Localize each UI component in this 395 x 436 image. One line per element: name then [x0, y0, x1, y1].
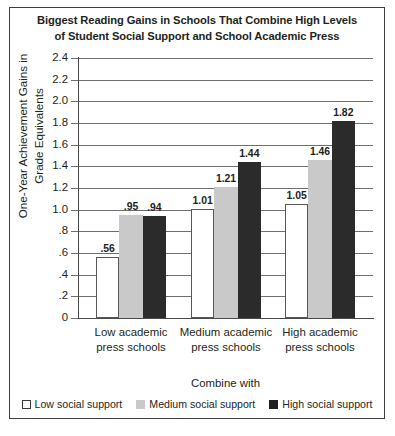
legend-item: Low social support: [22, 398, 123, 410]
y-axis-tick: [71, 80, 78, 81]
y-axis-tick: [71, 253, 78, 254]
bar: [119, 215, 142, 318]
x-axis-title: Combine with: [78, 377, 373, 389]
y-axis-tick-label: .8: [28, 225, 68, 236]
y-axis-tick-label: 2.4: [28, 52, 68, 63]
y-axis-tick-label: 1.4: [28, 160, 68, 171]
chart-title-line-1: Biggest Reading Gains in Schools That Co…: [14, 13, 380, 29]
bar-value-label: 1.01: [185, 195, 220, 206]
x-axis-line: [78, 318, 374, 319]
y-axis-tick-label: .6: [28, 247, 68, 258]
y-axis-tick: [71, 231, 78, 232]
y-axis-tick-label: 0: [28, 312, 68, 323]
x-axis-category-label: High academicpress schools: [263, 325, 377, 354]
y-axis-tick-label: 1.6: [28, 139, 68, 150]
bar: [191, 209, 214, 318]
x-axis-category-label-line: High academic: [263, 325, 377, 340]
bar-value-label: 1.05: [279, 190, 314, 201]
y-axis-tick: [71, 145, 78, 146]
bar-value-label: 1.46: [302, 146, 337, 157]
plot-area: [78, 58, 373, 318]
y-axis-title-line-1: One-Year Achievement Gains in: [15, 11, 31, 261]
y-axis-tick: [71, 188, 78, 189]
y-axis-tick: [71, 275, 78, 276]
y-axis-tick: [71, 318, 78, 319]
legend-swatch-icon: [269, 400, 278, 409]
chart-title: Biggest Reading Gains in Schools That Co…: [14, 13, 380, 44]
bar: [143, 216, 166, 318]
chart-figure: Biggest Reading Gains in Schools That Co…: [0, 0, 395, 436]
x-axis-category-label-line: press schools: [263, 340, 377, 355]
y-axis-title-line-2: Grade Equivalents: [31, 11, 47, 261]
legend-item: Medium social support: [136, 398, 255, 410]
bar-value-label: .56: [90, 243, 125, 254]
y-axis-tick: [71, 101, 78, 102]
y-axis-tick-label: 1.0: [28, 204, 68, 215]
y-axis-tick: [71, 210, 78, 211]
bar: [238, 162, 261, 318]
bar: [285, 204, 308, 318]
legend-label: High social support: [282, 398, 372, 410]
y-axis-tick-label: .4: [28, 269, 68, 280]
bar-value-label: 1.82: [326, 107, 361, 118]
bar: [96, 257, 119, 318]
y-axis-title: One-Year Achievement Gains in Grade Equi…: [15, 11, 47, 261]
y-axis-tick-label: 2.2: [28, 74, 68, 85]
legend-swatch-icon: [136, 400, 145, 409]
chart-title-line-2: of Student Social Support and School Aca…: [14, 29, 380, 45]
y-axis-tick-label: 1.2: [28, 182, 68, 193]
legend-label: Low social support: [35, 398, 123, 410]
y-axis-tick-label: .2: [28, 290, 68, 301]
bar-value-label: .94: [137, 202, 172, 213]
legend-label: Medium social support: [149, 398, 255, 410]
y-axis-tick-label: 1.8: [28, 117, 68, 128]
bar-value-label: 1.44: [232, 148, 267, 159]
legend-swatch-icon: [22, 400, 31, 409]
legend-item: High social support: [269, 398, 372, 410]
chart-legend: Low social supportMedium social supportH…: [16, 398, 378, 410]
bar-value-label: 1.21: [208, 173, 243, 184]
y-axis-tick-label: 2.0: [28, 95, 68, 106]
y-axis-tick: [71, 296, 78, 297]
bar: [308, 160, 331, 318]
bar: [214, 187, 237, 318]
y-axis-tick: [71, 58, 78, 59]
y-axis-tick: [71, 123, 78, 124]
y-axis-tick: [71, 166, 78, 167]
